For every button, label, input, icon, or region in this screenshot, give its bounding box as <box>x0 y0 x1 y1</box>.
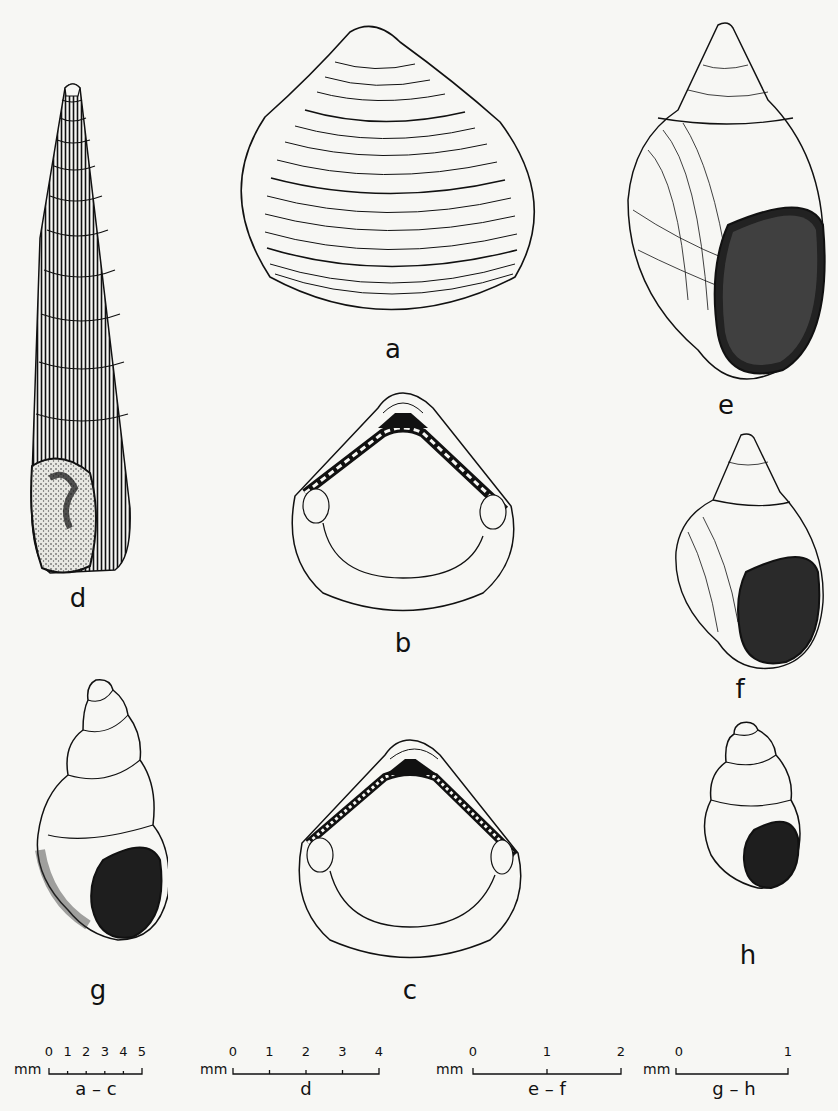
scale-caption: e – f <box>528 1078 566 1099</box>
scale-ruler <box>643 1040 793 1080</box>
figure-h-shell: h <box>696 720 806 900</box>
scale-bar-g-h: mm 0 1 g – h <box>643 1040 793 1100</box>
figure-a-shell: a <box>225 22 555 322</box>
figure-c-shell: c <box>290 735 530 960</box>
figure-g-label: g <box>78 975 118 1005</box>
scale-tick: 0 <box>675 1044 683 1059</box>
figure-d-label: d <box>58 583 98 613</box>
scale-tick: 0 <box>469 1044 477 1059</box>
figure-g-shell: g <box>28 675 168 955</box>
scale-tick: 1 <box>63 1044 71 1059</box>
figure-h-label: h <box>728 940 768 970</box>
figure-e-shell: e <box>618 20 838 390</box>
gastropod-aperture-drawing <box>618 20 838 390</box>
small-gastropod-drawing <box>28 675 168 955</box>
elongate-shell-drawing <box>20 78 140 578</box>
figure-a-label: a <box>373 334 413 364</box>
scale-tick: 1 <box>265 1044 273 1059</box>
scale-caption: a – c <box>75 1078 116 1099</box>
figure-c-label: c <box>390 975 430 1005</box>
scale-tick: 1 <box>784 1044 792 1059</box>
scale-bar-d: mm 0 1 2 3 4 d <box>200 1040 390 1100</box>
scale-tick: 2 <box>617 1044 625 1059</box>
figure-f-shell: f <box>668 432 828 672</box>
figure-f-label: f <box>720 674 760 704</box>
scale-caption: d <box>300 1078 311 1099</box>
figure-b-label: b <box>383 628 423 658</box>
figure-d-shell: d <box>20 78 140 578</box>
scale-tick: 2 <box>82 1044 90 1059</box>
scale-tick: 5 <box>138 1044 146 1059</box>
scale-bar-a-c: mm 0 1 2 3 4 5 a – c <box>14 1040 154 1100</box>
scale-tick: 3 <box>338 1044 346 1059</box>
scale-caption: g – h <box>712 1078 755 1099</box>
figure-e-label: e <box>706 390 746 420</box>
gastropod-aperture-drawing <box>668 432 828 672</box>
scale-tick: 1 <box>543 1044 551 1059</box>
figure-b-shell: b <box>283 388 523 613</box>
small-gastropod-drawing <box>696 720 806 900</box>
scale-bar-e-f: mm 0 1 2 e – f <box>436 1040 636 1100</box>
bivalve-interior-drawing <box>290 735 530 960</box>
scale-tick: 0 <box>45 1044 53 1059</box>
scale-tick: 4 <box>375 1044 383 1059</box>
scale-ruler <box>436 1040 636 1080</box>
bivalve-exterior-drawing <box>225 22 555 322</box>
scale-tick: 2 <box>302 1044 310 1059</box>
bivalve-interior-drawing <box>283 388 523 613</box>
scale-tick: 0 <box>229 1044 237 1059</box>
scale-tick: 3 <box>101 1044 109 1059</box>
scale-tick: 4 <box>119 1044 127 1059</box>
